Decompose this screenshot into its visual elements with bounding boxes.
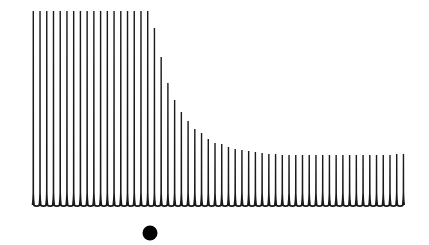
spike-bar <box>261 153 264 205</box>
spike-bar <box>287 155 290 205</box>
spike-bar <box>382 155 385 205</box>
spike-bar <box>186 121 189 205</box>
spike-bar <box>281 155 284 205</box>
spike-bar <box>86 11 89 205</box>
spike-bar <box>321 155 324 205</box>
spike-bar <box>213 143 216 205</box>
spike-bar <box>220 144 223 205</box>
spike-bar <box>274 154 277 205</box>
spike-bar <box>227 147 230 205</box>
spike-bar <box>375 155 378 205</box>
spike-bar <box>234 149 237 205</box>
spike-bars <box>32 11 405 205</box>
spike-bar <box>146 11 149 205</box>
spike-bar <box>267 154 270 205</box>
spike-bar <box>254 152 257 205</box>
spike-bar <box>173 100 176 205</box>
spike-bar <box>92 11 95 205</box>
spike-bar <box>402 154 405 205</box>
spike-bar <box>368 155 371 205</box>
spike-bar <box>314 155 317 205</box>
spike-bar <box>59 11 62 205</box>
spike-bar <box>99 11 102 205</box>
spike-bar <box>126 11 129 205</box>
spike-bar <box>335 155 338 205</box>
spike-bar <box>200 133 203 205</box>
spike-bar <box>32 11 35 205</box>
spike-bar <box>193 129 196 205</box>
spike-bar <box>166 83 169 205</box>
spike-bar <box>388 155 391 205</box>
spike-bar <box>207 139 210 205</box>
spike-bar <box>355 155 358 205</box>
spike-bar <box>72 11 75 205</box>
stimulus-marker-dot <box>143 226 158 241</box>
spike-bar <box>112 11 115 205</box>
spike-bar <box>308 155 311 205</box>
spike-bar <box>65 11 68 205</box>
spike-bar <box>79 11 82 205</box>
spike-bar <box>106 11 109 205</box>
spike-bar <box>328 155 331 205</box>
spike-bar <box>119 11 122 205</box>
spike-bar <box>348 155 351 205</box>
spike-bar <box>180 112 183 205</box>
spike-bar <box>38 11 41 205</box>
spike-bar <box>153 28 156 205</box>
spike-bar <box>52 11 55 205</box>
spike-bar <box>139 11 142 205</box>
spike-bar <box>160 57 163 205</box>
spike-bar <box>45 11 48 205</box>
spike-bar <box>395 154 398 205</box>
baseline-trace <box>33 205 403 206</box>
spike-bar <box>133 11 136 205</box>
spike-train-chart <box>0 0 429 245</box>
spike-train-figure <box>0 0 429 245</box>
spike-bar <box>301 155 304 205</box>
spike-bar <box>240 150 243 205</box>
spike-bar <box>247 151 250 205</box>
spike-bar <box>341 155 344 205</box>
spike-bar <box>294 155 297 205</box>
spike-bar <box>361 155 364 205</box>
